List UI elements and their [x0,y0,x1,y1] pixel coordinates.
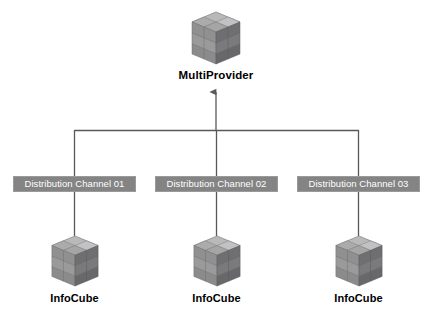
diagram-canvas: MultiProvider Distribution Channel 01 Di… [0,0,431,323]
cube-icon [49,234,101,288]
channel-box-1[interactable]: Distribution Channel 01 [13,176,136,192]
node-infocube-2[interactable]: InfoCube [166,234,267,304]
infocube-label-3: InfoCube [308,293,409,304]
node-multiprovider[interactable]: MultiProvider [161,10,271,82]
cube-icon [189,10,243,66]
infocube-label-2: InfoCube [166,293,267,304]
node-infocube-3[interactable]: InfoCube [308,234,409,304]
cube-icon [333,234,385,288]
multiprovider-label: MultiProvider [161,70,271,82]
channel-box-2[interactable]: Distribution Channel 02 [155,176,278,192]
channel-box-3[interactable]: Distribution Channel 03 [297,176,420,192]
cube-icon [191,234,243,288]
infocube-label-1: InfoCube [24,293,125,304]
node-infocube-1[interactable]: InfoCube [24,234,125,304]
